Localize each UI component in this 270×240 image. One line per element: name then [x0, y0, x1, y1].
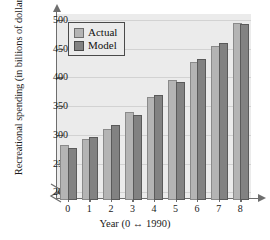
bar-model-8 — [240, 24, 249, 200]
y-tick-label: 500 — [28, 14, 68, 25]
legend-item-actual: Actual — [74, 26, 117, 39]
x-tick-label: 2 — [101, 203, 121, 214]
x-tick-label: 4 — [144, 203, 164, 214]
bar-model-3 — [133, 115, 142, 200]
x-tick-label: 8 — [230, 203, 250, 214]
legend-label-actual: Actual — [88, 26, 117, 39]
bar-model-0 — [68, 148, 77, 200]
legend: Actual Model — [68, 22, 125, 56]
bar-model-5 — [176, 82, 185, 200]
legend-swatch-actual — [74, 28, 84, 38]
y-axis-arrow — [53, 4, 61, 12]
x-tick-label: 1 — [79, 203, 99, 214]
x-tick-label: 6 — [187, 203, 207, 214]
x-axis-title: Year (0 ↔ 1990) — [0, 218, 270, 229]
x-tick-label: 7 — [209, 203, 229, 214]
x-axis-arrow — [258, 194, 266, 202]
bar-model-2 — [111, 125, 120, 200]
y-tick-label: 450 — [28, 43, 68, 54]
legend-item-model: Model — [74, 39, 117, 52]
y-tick-label: 350 — [28, 100, 68, 111]
recreational-spending-bar-chart: Recreational spending (in billions of do… — [0, 0, 270, 240]
x-tick-label: 0 — [58, 203, 78, 214]
bar-model-1 — [89, 137, 98, 200]
y-axis-title: Recreational spending (in billions of do… — [13, 0, 24, 184]
x-tick-label: 3 — [122, 203, 142, 214]
bar-model-7 — [219, 43, 228, 200]
legend-swatch-model — [74, 41, 84, 51]
x-tick-label: 5 — [166, 203, 186, 214]
y-tick-label: 400 — [28, 71, 68, 82]
bar-model-6 — [197, 59, 206, 200]
y-tick-label: 300 — [28, 129, 68, 140]
bar-model-4 — [154, 95, 163, 201]
gridline — [57, 20, 251, 21]
legend-label-model: Model — [88, 39, 117, 52]
